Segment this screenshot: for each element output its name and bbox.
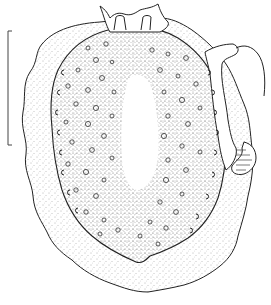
specimen-illustration [0,0,271,305]
rhinophores [100,4,168,32]
scale-bar [8,31,12,145]
